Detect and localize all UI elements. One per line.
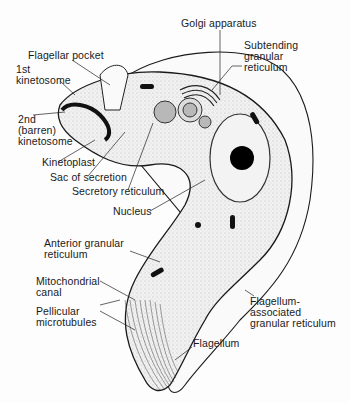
- label-first-kinetosome: 1st kinetosome: [16, 64, 71, 86]
- sac-of-secretion: [154, 101, 176, 123]
- label-mitochondrial-canal: Mitochondrial canal: [36, 276, 100, 298]
- label-flagellum-associated-granular-reticulum: Flagellum- associated granular reticulum: [250, 296, 336, 329]
- label-golgi-apparatus: Golgi apparatus: [181, 18, 257, 29]
- diagram-canvas: Golgi apparatus Subtending granular reti…: [0, 0, 350, 403]
- label-kinetoplast: Kinetoplast: [42, 157, 95, 168]
- label-subtending-granular-reticulum: Subtending granular reticulum: [244, 40, 298, 73]
- label-pellicular-microtubules: Pellicular microtubules: [36, 306, 97, 328]
- label-flagellum: Flagellum: [193, 338, 239, 349]
- label-secretory-reticulum: Secretory reticulum: [72, 186, 164, 197]
- nucleolus: [230, 146, 254, 170]
- label-anterior-granular-reticulum: Anterior granular reticulum: [44, 238, 124, 260]
- label-sac-of-secretion: Sac of secretion: [50, 172, 127, 183]
- label-flagellar-pocket: Flagellar pocket: [28, 50, 104, 61]
- label-nucleus: Nucleus: [113, 206, 152, 217]
- label-second-kinetosome: 2nd (barren) kinetosome: [18, 114, 73, 147]
